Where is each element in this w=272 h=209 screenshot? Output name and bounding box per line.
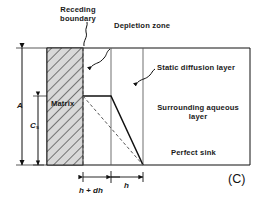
surrounding-aqueous-line2: layer	[189, 112, 208, 121]
dimension-label-A: A	[17, 101, 23, 110]
leader-static-diffusion	[138, 69, 155, 82]
dimension-label-Cs: Cs	[30, 121, 39, 130]
dimension-label-h-plus-dh: h + dh	[79, 186, 103, 195]
label-matrix: Matrix	[51, 100, 74, 109]
surrounding-aqueous-line1: Surrounding aqueous	[157, 103, 239, 112]
receding-boundary-line1: Receding	[60, 5, 95, 14]
cs-subscript: s	[36, 124, 39, 130]
label-perfect-sink: Perfect sink	[171, 149, 216, 158]
cs-symbol: C	[30, 121, 36, 130]
label-static-diffusion-layer: Static diffusion layer	[157, 64, 235, 73]
label-receding-boundary: Receding boundary	[50, 6, 106, 24]
leader-receding-boundary	[84, 22, 87, 46]
dimension-arrow-Cs	[33, 96, 47, 165]
dimension-label-h: h	[124, 181, 129, 190]
panel-label: (C)	[228, 172, 245, 186]
leader-depletion-zone	[92, 49, 110, 66]
dimension-line-bottom	[83, 171, 143, 183]
receding-boundary-line2: boundary	[60, 14, 96, 23]
label-depletion-zone: Depletion zone	[114, 22, 170, 31]
label-surrounding-aqueous-layer: Surrounding aqueous layer	[150, 104, 246, 122]
previous-profile-dashed	[83, 96, 143, 165]
